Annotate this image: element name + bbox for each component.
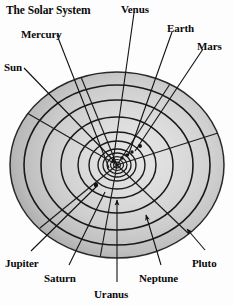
pluto-leader — [187, 229, 205, 250]
label-neptune: Neptune — [139, 273, 178, 284]
label-mars: Mars — [197, 41, 222, 52]
label-sun: Sun — [4, 62, 22, 73]
label-venus: Venus — [121, 4, 149, 15]
solar-system-diagram: The Solar System Sun Mercury Venus Earth… — [0, 0, 233, 306]
label-jupiter: Jupiter — [5, 258, 39, 269]
mars-dot — [130, 150, 133, 153]
sun-dot — [116, 164, 119, 167]
label-pluto: Pluto — [192, 258, 217, 269]
label-earth: Earth — [167, 23, 194, 34]
diagram-title: The Solar System — [6, 5, 90, 17]
label-mercury: Mercury — [21, 29, 62, 40]
label-saturn: Saturn — [44, 273, 76, 284]
venus-dot — [120, 156, 123, 159]
label-uranus: Uranus — [94, 289, 128, 300]
